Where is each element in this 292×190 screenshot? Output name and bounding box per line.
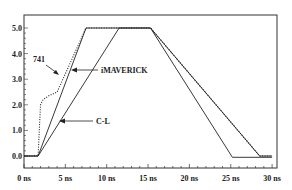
y-axis: 0.01.02.03.04.05.0 xyxy=(12,24,28,161)
y-tick-label: 1.0 xyxy=(12,126,22,135)
label-imaverick: iMAVERICK xyxy=(101,66,148,75)
x-tick-label: 0 ns xyxy=(17,174,31,183)
y-tick-label: 3.0 xyxy=(12,75,22,84)
y-tick-label: 4.0 xyxy=(12,50,22,59)
arrow-c-l-head xyxy=(59,119,65,124)
x-tick-label: 5 ns xyxy=(59,174,73,183)
line-chart: 0 ns5 ns10 ns15 ns20 ns25 ns30 ns 0.01.0… xyxy=(0,0,292,190)
x-tick-label: 30 ns xyxy=(263,174,281,183)
x-tick-label: 25 ns xyxy=(222,174,240,183)
annotation-741: 741 xyxy=(33,55,59,75)
x-tick-label: 15 ns xyxy=(139,174,157,183)
y-tick-label: 2.0 xyxy=(12,101,22,110)
y-tick-label: 0.0 xyxy=(12,152,22,161)
label-c-l: C-L xyxy=(96,117,110,126)
x-tick-label: 10 ns xyxy=(98,174,116,183)
series-group xyxy=(24,28,272,157)
x-axis: 0 ns5 ns10 ns15 ns20 ns25 ns30 ns xyxy=(17,164,281,183)
series-c-l xyxy=(24,28,272,157)
annotation-c-l: C-L xyxy=(59,117,110,126)
label-741: 741 xyxy=(33,55,45,64)
y-tick-label: 5.0 xyxy=(12,24,22,33)
series-741 xyxy=(24,28,272,156)
x-tick-label: 20 ns xyxy=(181,174,199,183)
series-imaverick xyxy=(24,28,272,156)
arrow-imaverick-head xyxy=(71,68,77,73)
annotation-imaverick: iMAVERICK xyxy=(71,66,148,75)
